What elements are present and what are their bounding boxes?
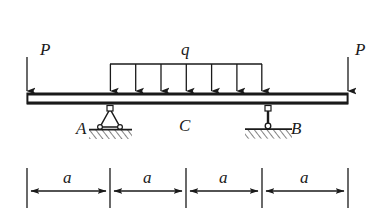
label-p-right: P [354,40,365,59]
dimension-line: a a a a [27,168,348,208]
dim-label-2: a [143,168,152,187]
support-a-triangle [100,109,120,127]
label-q: q [181,40,190,59]
distributed-load-q [110,64,262,91]
dim-label-3: a [219,168,228,187]
support-a-ground-hatch [89,130,132,139]
figure-canvas: P P q A B C a a a a [0,0,381,222]
support-b-ground-hatch [245,130,292,139]
dim-label-1: a [63,168,72,187]
support-a [89,106,132,140]
support-a-top-pin [107,106,113,112]
label-p-left: P [39,40,50,59]
support-b [245,106,292,139]
beam-diagram: P P q A B C a a a a [0,0,381,222]
support-a-roller-right [118,125,123,130]
label-support-b: B [291,119,302,138]
support-a-roller-left [98,125,103,130]
dim-label-4: a [300,168,309,187]
label-support-a: A [75,119,87,138]
support-b-bottom-pin [265,123,271,129]
beam [27,93,348,104]
support-b-top-pin [265,106,271,112]
label-point-c: C [179,116,191,135]
